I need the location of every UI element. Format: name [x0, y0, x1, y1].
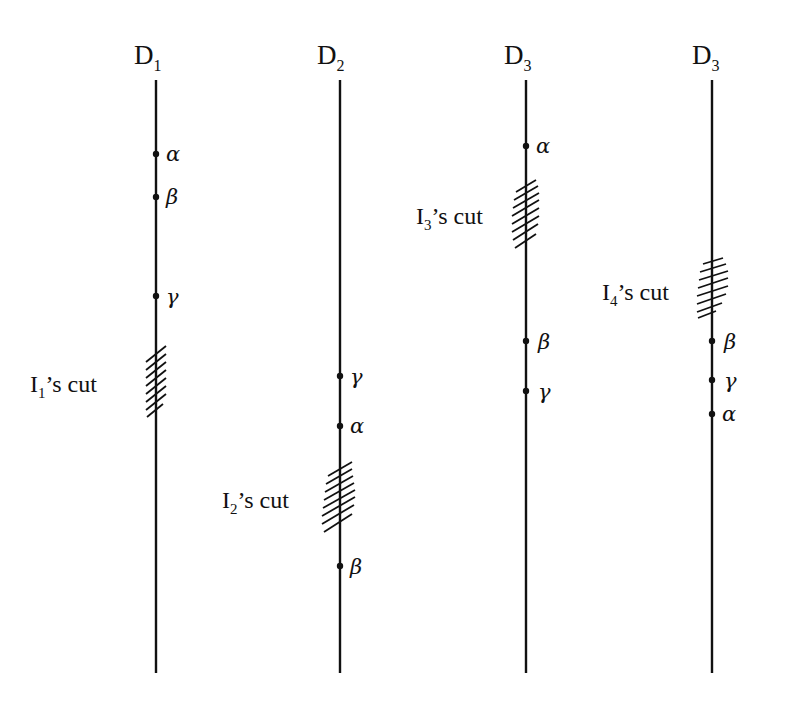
line-d1-label-alpha: α — [166, 142, 180, 166]
line-d4: D3 I4’s cut β γ α — [602, 40, 737, 673]
line-d3-cut-label: I3’s cut — [416, 203, 483, 233]
line-d4-cut-label: I4’s cut — [602, 279, 669, 309]
line-d1-point-gamma — [153, 293, 159, 299]
line-d1-point-beta — [153, 194, 159, 200]
line-d2-point-alpha — [337, 423, 343, 429]
line-d4-point-gamma — [709, 377, 715, 383]
line-d4-label-alpha: α — [722, 402, 736, 426]
line-d1: D1 I1’s cut α β γ — [30, 40, 180, 673]
line-d2-cut-hatch — [322, 462, 355, 532]
line-d2-label-gamma: γ — [350, 365, 363, 389]
line-d3-label-beta: β — [537, 330, 550, 354]
line-d4-point-alpha — [709, 411, 715, 417]
line-d3-title: D3 — [504, 40, 532, 74]
line-d3-point-gamma — [523, 388, 529, 394]
line-d1-label-beta: β — [165, 185, 178, 209]
line-d1-point-alpha — [153, 151, 159, 157]
line-d4-title: D3 — [692, 40, 720, 74]
line-d4-label-beta: β — [723, 330, 736, 354]
line-d2-title: D2 — [317, 40, 345, 74]
line-d2-cut-label: I2’s cut — [222, 487, 289, 517]
line-d1-cut-label: I1’s cut — [30, 371, 97, 401]
line-d3-label-gamma: γ — [538, 380, 551, 404]
line-d1-label-gamma: γ — [166, 285, 179, 309]
line-d2-label-alpha: α — [350, 414, 364, 438]
line-d3-point-alpha — [523, 143, 529, 149]
line-d4-label-gamma: γ — [724, 369, 737, 393]
diagram-canvas: D1 I1’s cut α β γ D2 — [0, 0, 786, 709]
line-d3: D3 I3’s cut α β γ — [416, 40, 551, 673]
line-d4-point-beta — [709, 338, 715, 344]
line-d3-label-alpha: α — [536, 134, 550, 158]
line-d1-title: D1 — [134, 40, 162, 74]
line-d2: D2 I2’s cut γ α β — [222, 40, 364, 673]
line-d2-point-beta — [337, 563, 343, 569]
line-d3-point-beta — [523, 338, 529, 344]
line-d2-label-beta: β — [349, 555, 362, 579]
line-d2-point-gamma — [337, 373, 343, 379]
